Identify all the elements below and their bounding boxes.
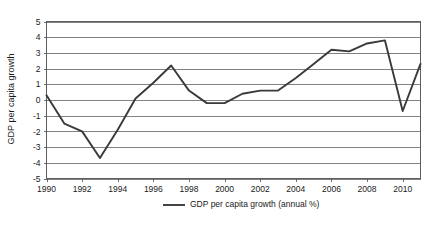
x-tick-label-2010: 2010 (393, 184, 412, 194)
x-tick-label-1990: 1990 (37, 184, 56, 194)
legend-label-gdp-per-capita-growth: GDP per capita growth (annual %) (190, 199, 319, 209)
y-tick-label-2: 2 (36, 64, 41, 74)
y-tick-label-5: 5 (36, 17, 41, 27)
chart-figure: 543210-1-2-3-4-5 19901992199419961998200… (0, 0, 444, 226)
y-axis-title: GDP per capita growth (6, 54, 16, 145)
y-tick-label--4: -4 (33, 158, 41, 168)
y-tick-label--2: -2 (33, 127, 41, 137)
x-tick-label-1994: 1994 (108, 184, 127, 194)
x-tick-label-1998: 1998 (180, 184, 199, 194)
y-tick-label--5: -5 (33, 174, 41, 184)
caption-strip (0, 219, 444, 226)
y-tick-label--1: -1 (33, 111, 41, 121)
x-tick-label-2006: 2006 (322, 184, 341, 194)
y-tick-label-4: 4 (36, 32, 41, 42)
y-tick-label-1: 1 (36, 79, 41, 89)
x-tick-label-2004: 2004 (286, 184, 305, 194)
y-tick-label--3: -3 (33, 142, 41, 152)
x-tick-label-1996: 1996 (144, 184, 163, 194)
x-tick-label-2000: 2000 (215, 184, 234, 194)
gdp-per-capita-growth-line-chart: 543210-1-2-3-4-5 19901992199419961998200… (0, 0, 444, 226)
y-tick-label-3: 3 (36, 48, 41, 58)
y-tick-label-0: 0 (36, 95, 41, 105)
x-tick-label-2008: 2008 (358, 184, 377, 194)
x-tick-label-2002: 2002 (251, 184, 270, 194)
x-tick-label-1992: 1992 (73, 184, 92, 194)
